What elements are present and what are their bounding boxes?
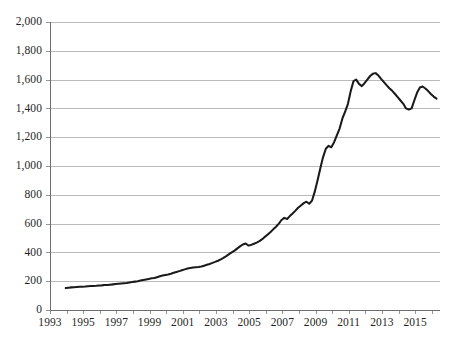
y-axis-tick-label: 1,400	[16, 102, 43, 115]
x-axis-tick-label: 1997	[105, 316, 129, 328]
y-axis-tick-label: 1,800	[16, 44, 43, 57]
x-axis-tick-label: 1993	[38, 316, 62, 328]
x-axis-tick-label: 1995	[71, 316, 95, 328]
y-axis-tick-label: 2,000	[16, 15, 43, 28]
x-axis-tick-label: 2011	[337, 316, 360, 328]
x-axis-tick-labels: 1993199519971999200120032005200720092011…	[38, 316, 427, 328]
series-line-index	[66, 73, 437, 288]
y-axis-tick-label: 400	[24, 246, 42, 258]
y-axis-tick-label: 1,000	[16, 159, 43, 172]
line-chart-plot: 02004006008001,0001,2001,4001,6001,8002,…	[0, 0, 458, 354]
y-axis-tick-label: 0	[36, 303, 42, 315]
chart-figure: 02004006008001,0001,2001,4001,6001,8002,…	[0, 0, 458, 354]
axis-tickmarks-group	[46, 23, 433, 314]
data-series-group	[66, 73, 437, 288]
y-axis-tick-label: 800	[24, 188, 42, 200]
y-axis-tick-labels: 02004006008001,0001,2001,4001,6001,8002,…	[16, 15, 43, 315]
x-axis-tick-label: 2001	[171, 316, 195, 328]
x-axis-tick-label: 2007	[271, 316, 295, 328]
x-axis-tick-label: 2013	[370, 316, 394, 328]
y-axis-tick-label: 600	[24, 217, 42, 229]
y-axis-tick-label: 1,200	[16, 130, 43, 143]
x-axis-tick-label: 1999	[138, 316, 162, 328]
figure-caption-fragment	[28, 347, 432, 354]
y-axis-tick-label: 1,600	[16, 73, 43, 86]
y-axis-tick-label: 200	[24, 274, 42, 286]
x-axis-tick-label: 2005	[237, 316, 261, 328]
x-axis-tick-label: 2003	[204, 316, 228, 328]
x-axis-tick-label: 2009	[304, 316, 328, 328]
x-axis-tick-label: 2015	[403, 316, 427, 328]
